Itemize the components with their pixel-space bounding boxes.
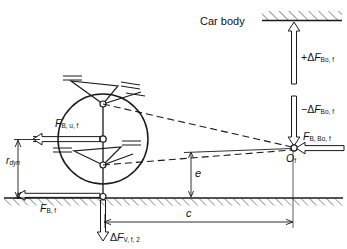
force-unsprung-sub: B, u, f <box>61 122 78 129</box>
force-body-horizontal-sub: B, Bo, f <box>309 135 330 142</box>
label-pole-point: Of <box>286 153 296 165</box>
car-body-hatching <box>262 11 342 20</box>
dimension-rdyn <box>14 140 40 200</box>
wheel-hub <box>100 136 106 142</box>
force-arrow-body-horizontal <box>296 142 344 154</box>
force-body-minus-sub: Bo, f <box>321 108 334 115</box>
force-vertical-delta-symbol-delta: Δ <box>110 231 117 243</box>
diagram-canvas: Car body +ΔFBo, f −ΔFBo, f FB, Bo, f Of … <box>0 0 347 249</box>
upper-wishbone <box>63 76 145 107</box>
label-force-vertical-delta: ΔFV, f, 2 <box>110 232 140 244</box>
force-arrow-unsprung <box>33 133 100 145</box>
radius-dynamic-sub: dyn <box>10 159 20 166</box>
label-force-brake-ground: FB, f <box>40 203 56 215</box>
label-force-body-plus: +ΔFBo, f <box>301 52 334 64</box>
label-force-body-horizontal: FB, Bo, f <box>303 131 331 143</box>
label-radius-dynamic: rdyn <box>6 155 20 167</box>
label-force-body-minus: −ΔFBo, f <box>301 104 334 116</box>
label-dimension-c: c <box>186 208 192 219</box>
pole-point-sub: f <box>294 157 296 164</box>
force-body-plus-sub: Bo, f <box>321 56 334 63</box>
label-car-body: Car body <box>200 16 245 27</box>
dimension-c <box>104 150 293 228</box>
label-force-unsprung: FB, u, f <box>55 118 78 130</box>
force-vertical-delta-sub: V, f, 2 <box>123 236 139 243</box>
force-arrow-body-up <box>288 22 300 84</box>
tyre-contact-joint <box>100 194 106 200</box>
pole-point-symbol: O <box>286 152 294 164</box>
car-body-group <box>262 11 342 21</box>
force-brake-ground-sub: B, f <box>46 207 56 214</box>
label-dimension-e: e <box>195 168 201 179</box>
force-arrow-body-down <box>288 96 300 146</box>
